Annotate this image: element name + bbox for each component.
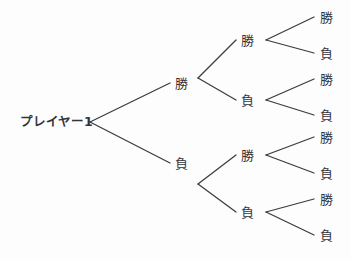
edges-group: [90, 17, 314, 235]
tree-edge-w-to-wl: [198, 78, 236, 100]
tree-edge-l-to-lw: [198, 155, 236, 184]
tree-edge-w-to-ww: [198, 40, 236, 78]
tree-edge-wl-to-wlwin: [266, 79, 314, 100]
tree-node-leaf-5: 負: [320, 167, 333, 180]
tree-diagram-page: { "diagram": { "title": "プレイヤー1 勝敗ツリー", …: [0, 0, 350, 259]
tree-node-leaf-2: 勝: [320, 73, 333, 86]
tree-node-level2-1: 負: [241, 94, 254, 107]
tree-node-leaf-3: 負: [320, 109, 333, 122]
tree-edge-ll-to-llwin: [266, 199, 314, 212]
tree-node-level1-lose: 負: [175, 157, 188, 170]
tree-edge-ww-to-wwlose: [266, 40, 314, 53]
tree-node-leaf-4: 勝: [320, 131, 333, 144]
tree-edges-layer: [0, 0, 350, 259]
tree-edge-l-to-ll: [198, 184, 236, 212]
tree-edge-root-to-lose: [90, 122, 170, 163]
tree-node-level2-3: 負: [241, 206, 254, 219]
tree-edge-wl-to-wllose: [266, 100, 314, 115]
tree-node-leaf-6: 勝: [320, 193, 333, 206]
tree-node-level2-2: 勝: [241, 149, 254, 162]
tree-node-level2-0: 勝: [241, 34, 254, 47]
tree-node-leaf-0: 勝: [320, 11, 333, 24]
tree-node-leaf-1: 負: [320, 47, 333, 60]
tree-node-level1-win: 勝: [175, 77, 188, 90]
tree-node-leaf-7: 負: [320, 229, 333, 242]
tree-edge-lw-to-lwwin: [266, 137, 314, 155]
tree-node-root-player: プレイヤー1: [20, 116, 93, 129]
tree-edge-root-to-win: [90, 83, 170, 122]
tree-diagram-canvas: プレイヤー1勝負勝負勝負勝負勝負勝負勝負: [0, 0, 350, 259]
tree-edge-lw-to-lwlose: [266, 155, 314, 173]
tree-edge-ww-to-wwwin: [266, 17, 314, 40]
tree-edge-ll-to-lllose: [266, 212, 314, 235]
